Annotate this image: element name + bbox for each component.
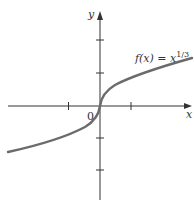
origin-label: 0 [87,110,94,123]
cube-root-graph: y x 0 f(x) = x1/3 [0,0,194,213]
x-axis-label: x [186,108,193,121]
function-label: f(x) = x1/3 [134,50,189,65]
y-axis-label: y [87,8,95,21]
y-axis-arrow-icon [97,11,103,20]
